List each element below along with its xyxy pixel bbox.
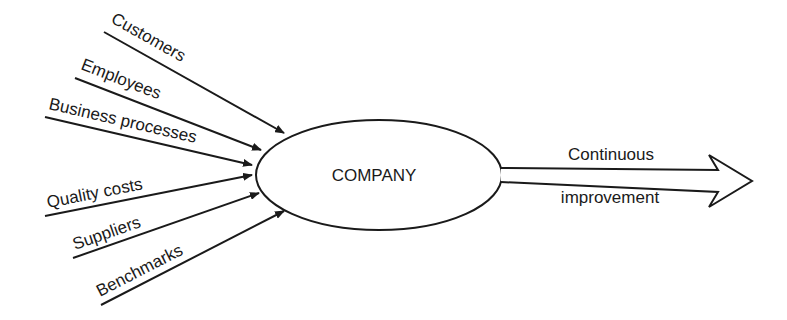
company-node: COMPANY: [256, 120, 502, 230]
output-arrow-continuous-improvement: Continuous improvement: [501, 145, 752, 207]
input-arrow-business-processes: Business processes: [45, 94, 252, 165]
company-label: COMPANY: [332, 166, 417, 185]
company-improvement-diagram: Customers Employees Business processes Q…: [0, 0, 787, 320]
input-arrow-quality-costs: Quality costs: [45, 174, 252, 216]
output-label-bottom: improvement: [561, 188, 660, 207]
input-label-benchmarks: Benchmarks: [93, 240, 186, 300]
input-label-suppliers: Suppliers: [70, 212, 143, 253]
input-label-business-processes: Business processes: [47, 94, 199, 147]
output-label-top: Continuous: [568, 145, 654, 164]
